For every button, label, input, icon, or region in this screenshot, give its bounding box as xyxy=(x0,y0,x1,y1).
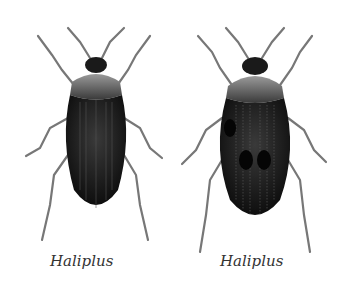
caption-right: Haliplus xyxy=(220,252,283,270)
caption-left: Haliplus xyxy=(50,252,113,270)
beetle-illustration: Haliplus Haliplus xyxy=(0,0,338,299)
